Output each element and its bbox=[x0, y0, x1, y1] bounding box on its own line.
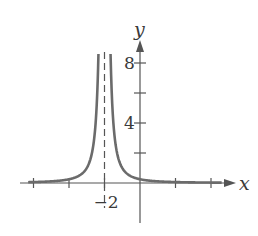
function-graph: x y 48−2 bbox=[0, 0, 258, 236]
y-tick-label: 4 bbox=[124, 113, 135, 133]
y-axis-arrow-icon bbox=[136, 40, 144, 52]
y-tick-label: 8 bbox=[124, 53, 135, 73]
curve-left-branch bbox=[28, 54, 98, 182]
axes bbox=[20, 52, 228, 223]
x-axis-label: x bbox=[239, 172, 250, 194]
y-axis-label: y bbox=[133, 18, 145, 40]
x-axis-arrow-icon bbox=[224, 179, 236, 187]
x-tick-label: −2 bbox=[94, 192, 119, 212]
